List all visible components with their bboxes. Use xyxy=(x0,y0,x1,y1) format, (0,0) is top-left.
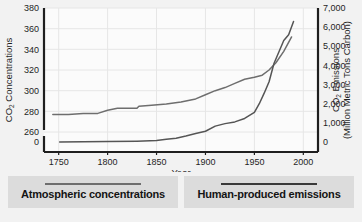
right-axis-tick-label: 0 xyxy=(323,137,328,147)
legend-item-atmospheric-concentrations[interactable]: Atmospheric concentrations xyxy=(8,176,178,208)
legend-label-human-produced-emissions: Human-produced emissions xyxy=(197,188,340,200)
x-axis-title: Year xyxy=(171,167,190,172)
left-axis-tick-label: 340 xyxy=(24,45,39,55)
x-axis-tick-label: 1800 xyxy=(98,157,118,167)
chart-legend: Atmospheric concentrations Human-produce… xyxy=(0,176,362,208)
left-axis-tick-label: 280 xyxy=(24,107,39,117)
x-axis-tick-label: 1950 xyxy=(244,157,264,167)
svg-text:(Million Metric Tons Carbon): (Million Metric Tons Carbon) xyxy=(341,21,352,139)
plot-background xyxy=(44,8,318,152)
left-axis-tick-label: 320 xyxy=(24,65,39,75)
legend-swatch-human-produced-emissions xyxy=(221,183,317,185)
left-axis-tick-label: 380 xyxy=(24,3,39,13)
svg-text:CO2 Concentrations: CO2 Concentrations xyxy=(3,38,15,123)
left-axis-title: CO2 Concentrations xyxy=(3,38,15,123)
left-axis-tick-label: 260 xyxy=(24,127,39,137)
left-axis-tick-label: 300 xyxy=(24,86,39,96)
x-axis-tick-label: 1750 xyxy=(49,157,69,167)
x-axis-tick-label: 1900 xyxy=(195,157,215,167)
x-axis-tick-label: 1850 xyxy=(147,157,167,167)
legend-item-human-produced-emissions[interactable]: Human-produced emissions xyxy=(184,176,354,208)
left-axis-tick-label: 360 xyxy=(24,24,39,34)
co2-line-chart: 38036034032030028026007,0006,0005,0004,0… xyxy=(0,0,362,172)
legend-swatch-atmospheric-concentrations xyxy=(45,183,141,185)
right-axis-tick-label: 7,000 xyxy=(323,3,346,13)
co2-figure: 38036034032030028026007,0006,0005,0004,0… xyxy=(0,0,362,222)
left-axis-tick-label: 0 xyxy=(34,137,39,147)
legend-label-atmospheric-concentrations: Atmospheric concentrations xyxy=(21,188,165,200)
chart-area: 38036034032030028026007,0006,0005,0004,0… xyxy=(0,0,362,172)
x-axis-tick-label: 2000 xyxy=(293,157,313,167)
